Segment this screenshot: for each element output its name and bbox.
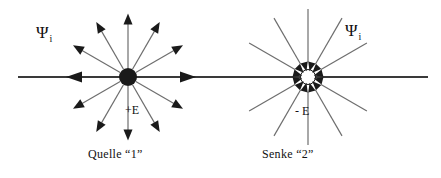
arrowhead xyxy=(73,45,85,54)
arrowhead xyxy=(180,72,196,83)
sink-ray xyxy=(321,43,367,70)
arrowhead xyxy=(73,99,85,108)
arrowhead xyxy=(124,14,133,25)
arrowhead xyxy=(150,22,159,34)
sink-ray xyxy=(316,18,343,64)
sink-ray xyxy=(249,43,295,70)
psi-symbol-source: Ψ xyxy=(36,23,49,42)
arrowhead xyxy=(96,22,105,34)
sink-caption: Senke “2” xyxy=(262,148,314,160)
arrowhead xyxy=(171,99,183,108)
arrowhead xyxy=(96,120,105,132)
figure-root: Ψi Ψi +E - E Quelle “1” Senke “2” xyxy=(0,0,441,178)
sink-ray xyxy=(274,18,301,64)
psi-subscript-source: i xyxy=(50,33,53,44)
psi-label-source: Ψi xyxy=(36,24,52,44)
psi-subscript-sink: i xyxy=(359,31,362,42)
sink-ray xyxy=(321,85,367,112)
sink-ray xyxy=(316,90,343,136)
source-disc xyxy=(119,68,137,86)
psi-label-sink: Ψi xyxy=(345,22,361,42)
arrowhead xyxy=(171,45,183,54)
figure-diagram xyxy=(0,0,441,178)
source-charge-marker xyxy=(119,68,137,86)
psi-symbol-sink: Ψ xyxy=(345,21,358,40)
sink-ray xyxy=(249,85,295,112)
arrowhead xyxy=(150,120,159,132)
sink-field-label: - E xyxy=(295,105,309,117)
source-caption: Quelle “1” xyxy=(88,148,143,160)
horizontal-axis xyxy=(18,72,428,83)
arrowhead xyxy=(124,130,133,141)
source-field-label: +E xyxy=(125,104,139,116)
arrowhead xyxy=(66,72,82,83)
